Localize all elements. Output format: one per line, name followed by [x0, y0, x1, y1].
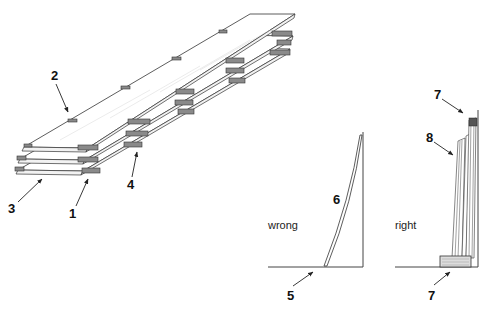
base-block: [440, 256, 471, 267]
label-1: 1: [69, 179, 88, 221]
top-block: [469, 118, 477, 126]
svg-text:5: 5: [287, 288, 294, 303]
label-2: 2: [51, 68, 68, 112]
leaning-board: [324, 135, 362, 266]
panel-wrong: wrong 6 5: [267, 132, 363, 303]
svg-text:4: 4: [127, 177, 135, 192]
board-top: [22, 14, 295, 152]
label-3: 3: [8, 179, 42, 216]
svg-text:1: 1: [69, 206, 76, 221]
svg-text:7: 7: [434, 87, 441, 102]
label-8: 8: [426, 130, 453, 155]
caption-right: right: [395, 219, 416, 231]
diagram-canvas: 2 3 1 4 wrong 6 5: [0, 0, 492, 315]
caption-wrong: wrong: [267, 219, 298, 231]
upright-boards: [452, 118, 477, 258]
panel-right: right 7 8 7: [395, 87, 478, 303]
label-4: 4: [127, 152, 137, 192]
label-7-top: 7: [434, 87, 463, 113]
svg-text:2: 2: [51, 68, 58, 83]
label-7-bottom: 7: [428, 272, 450, 303]
label-5: 5: [287, 272, 313, 303]
label-6: 6: [333, 192, 340, 207]
svg-text:6: 6: [333, 192, 340, 207]
svg-text:3: 3: [8, 201, 15, 216]
svg-text:7: 7: [428, 288, 435, 303]
svg-text:8: 8: [426, 130, 433, 145]
board-stack: [15, 14, 295, 175]
